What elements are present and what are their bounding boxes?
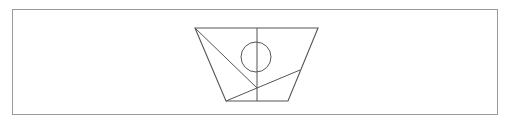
diagonal-line: [195, 28, 257, 88]
circle-shape: [241, 42, 271, 72]
geometry-figure: [0, 0, 512, 127]
chord-line: [226, 70, 300, 101]
